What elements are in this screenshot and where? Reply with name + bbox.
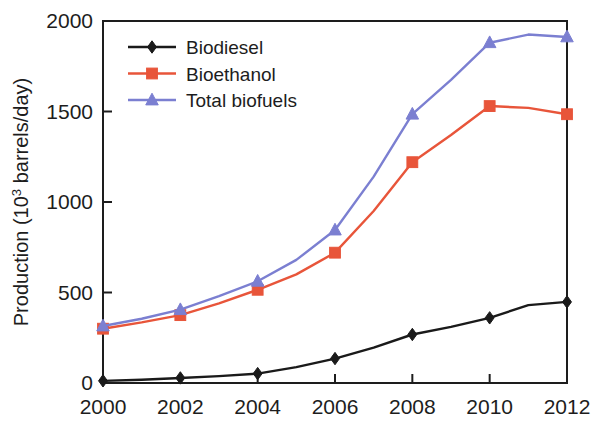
y-tick-label: 500 <box>58 281 93 304</box>
triangle-marker <box>251 274 264 286</box>
square-marker <box>407 157 418 168</box>
square-marker <box>562 109 573 120</box>
legend-item-total-biofuels[interactable]: Total biofuels <box>128 90 297 111</box>
legend-item-biodiesel[interactable]: Biodiesel <box>128 37 263 58</box>
x-tick-label: 2004 <box>234 395 281 418</box>
diamond-marker <box>99 375 108 387</box>
y-tick-label: 1500 <box>46 100 93 123</box>
chart-canvas: 0500100015002000 20002002200420062008201… <box>0 0 591 441</box>
x-axis-tick-labels: 2000200220042006200820102012 <box>80 395 591 418</box>
data-series-layer <box>97 30 574 387</box>
square-marker <box>147 68 158 79</box>
legend-label: Bioethanol <box>186 64 276 85</box>
series-biodiesel <box>99 296 572 387</box>
square-marker <box>484 101 495 112</box>
x-tick-label: 2006 <box>312 395 359 418</box>
diamond-marker <box>485 312 494 324</box>
y-axis-title: Production (103 barrels/day) <box>9 78 32 326</box>
diamond-marker <box>331 352 340 364</box>
legend-item-bioethanol[interactable]: Bioethanol <box>128 64 276 85</box>
diamond-marker <box>148 41 157 53</box>
y-axis-tick-labels: 0500100015002000 <box>46 9 93 394</box>
series-line <box>103 35 567 326</box>
y-tick-label: 2000 <box>46 9 93 32</box>
diamond-marker <box>408 328 417 340</box>
y-tick-label: 0 <box>81 371 93 394</box>
biofuel-production-line-chart: 0500100015002000 20002002200420062008201… <box>0 0 591 441</box>
x-tick-label: 2012 <box>544 395 591 418</box>
x-tick-label: 2002 <box>157 395 204 418</box>
x-tick-label: 2000 <box>80 395 127 418</box>
series-line <box>103 302 567 381</box>
square-marker <box>330 247 341 258</box>
legend-label: Biodiesel <box>186 37 263 58</box>
diamond-marker <box>253 367 262 379</box>
series-bioethanol <box>98 101 573 334</box>
series-line <box>103 106 567 329</box>
series-total-biofuels <box>97 30 574 331</box>
y-tick-label: 1000 <box>46 190 93 213</box>
legend-label: Total biofuels <box>186 90 297 111</box>
x-tick-label: 2008 <box>389 395 436 418</box>
diamond-marker <box>563 296 572 308</box>
x-tick-label: 2010 <box>466 395 513 418</box>
plot-area-border <box>103 21 567 383</box>
chart-legend: BiodieselBioethanolTotal biofuels <box>128 37 297 111</box>
